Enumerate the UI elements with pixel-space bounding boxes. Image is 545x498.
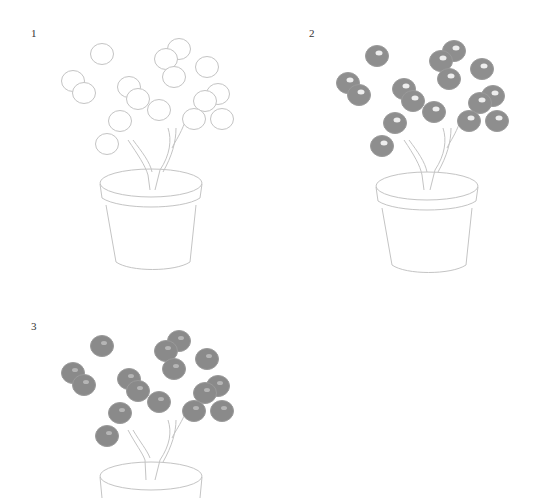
step-1-drawing <box>0 0 272 280</box>
step-3-drawing <box>0 280 272 498</box>
step-3-panel: 3 <box>0 280 272 498</box>
step-2-panel: 2 <box>272 0 545 280</box>
step-2-drawing <box>272 0 545 280</box>
step-1-panel: 1 <box>0 0 272 280</box>
berries-shaded-soft <box>62 331 234 447</box>
berry-outlines <box>62 39 234 155</box>
berries-shaded <box>337 41 509 157</box>
